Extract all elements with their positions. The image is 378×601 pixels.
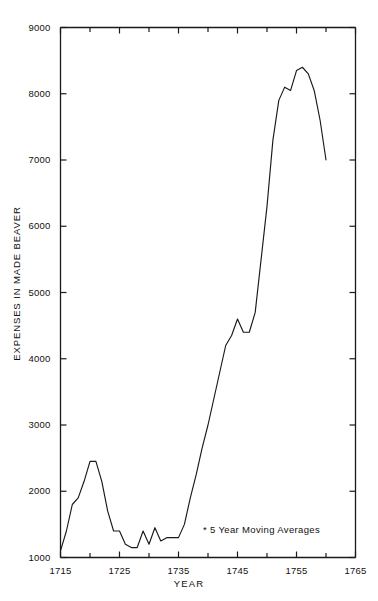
chart-container: 100020003000400050006000700080009000 171… (0, 0, 378, 601)
x-tick-label-1735: 1735 (157, 565, 201, 576)
y-tick-label-8000: 8000 (0, 88, 51, 99)
x-tick-label-1725: 1725 (98, 565, 142, 576)
data-series-line-0 (61, 67, 327, 551)
y-tick-label-5000: 5000 (0, 287, 51, 298)
y-axis-title: EXPENSES IN MADE BEAVER (11, 194, 22, 374)
y-tick-label-9000: 9000 (0, 22, 51, 33)
moving-average-note: * 5 Year Moving Averages (203, 524, 320, 535)
x-tick-label-1745: 1745 (216, 565, 260, 576)
line-chart-plot (0, 0, 378, 601)
y-tick-label-4000: 4000 (0, 353, 51, 364)
data-series-group (61, 67, 327, 551)
x-tick-label-1715: 1715 (39, 565, 83, 576)
y-tick-label-7000: 7000 (0, 154, 51, 165)
axis-frame (61, 28, 356, 558)
x-tick-label-1755: 1755 (275, 565, 319, 576)
y-tick-label-3000: 3000 (0, 419, 51, 430)
y-tick-label-2000: 2000 (0, 485, 51, 496)
y-tick-label-1000: 1000 (0, 552, 51, 563)
y-tick-label-6000: 6000 (0, 220, 51, 231)
x-axis-title: YEAR (0, 578, 378, 589)
x-tick-label-1765: 1765 (334, 565, 378, 576)
axis-tick-marks (61, 28, 356, 558)
